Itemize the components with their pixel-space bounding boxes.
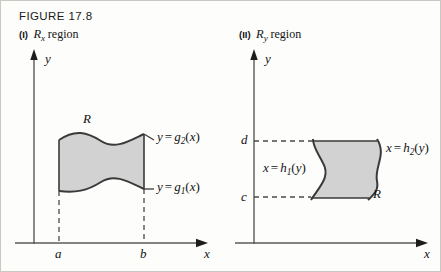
panel-x-graphics <box>15 49 208 247</box>
equals-sign-g1: = <box>163 179 174 194</box>
paren-close-h1: ) <box>301 160 305 175</box>
y-axis-arrow-1 <box>30 49 37 60</box>
tick-label-c: c <box>241 189 247 205</box>
curve-label-h2: x=h2(y) <box>386 140 429 157</box>
y-axis-label-2: y <box>265 51 271 67</box>
region-fill-y <box>311 141 381 198</box>
tick-label-b: b <box>140 246 147 262</box>
paren-close-h2: ) <box>424 140 428 155</box>
tick-label-a: a <box>55 246 62 262</box>
y-axis-label-1: y <box>45 51 51 67</box>
y-axis-arrow-2 <box>250 49 257 60</box>
x-axis-label-1: x <box>204 246 210 262</box>
leader-upper-g2 <box>144 134 154 140</box>
equals-sign-h2: = <box>392 140 403 155</box>
curve-label-g1: y=g1(x) <box>157 179 200 196</box>
region-label-y: R <box>373 186 381 202</box>
paren-close-g1: ) <box>195 179 199 194</box>
curve-lhs-h2: x <box>386 140 392 155</box>
figure-drawing-canvas <box>1 1 441 272</box>
x-axis-label-2: x <box>424 246 430 262</box>
equals-sign-h1: = <box>269 160 280 175</box>
curve-label-h1: x=h1(y) <box>263 160 306 177</box>
paren-close-g2: ) <box>195 129 199 144</box>
curve-lhs-g1: y <box>157 179 163 194</box>
curve-label-g2: y=g2(x) <box>157 129 200 146</box>
curve-lhs-h1: x <box>263 160 269 175</box>
tick-label-d: d <box>241 132 248 148</box>
equals-sign-g2: = <box>163 129 174 144</box>
figure-container: FIGURE 17.8 (I) Rx region (II) Ry region <box>0 0 441 272</box>
region-label-x: R <box>83 111 91 127</box>
curve-lhs-g2: y <box>157 129 163 144</box>
